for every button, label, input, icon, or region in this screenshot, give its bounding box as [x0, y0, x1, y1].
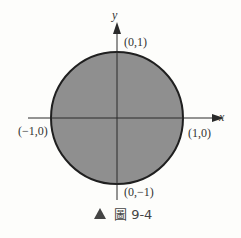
point-label-top: (0,1) — [124, 36, 147, 48]
point-label-left: (−1,0) — [18, 125, 48, 137]
x-axis-label: x — [219, 111, 224, 123]
caption-text: 圖 9-4 — [114, 204, 152, 223]
y-axis-arrow-icon — [113, 22, 121, 34]
triangle-marker-icon — [94, 208, 106, 219]
unit-circle-diagram — [0, 0, 241, 238]
point-label-right: (1,0) — [188, 127, 211, 139]
y-axis-label: y — [112, 9, 117, 21]
figure-canvas: y x (0,1) (−1,0) (1,0) (0,−1) 圖 9-4 — [0, 0, 241, 238]
point-label-bottom: (0,−1) — [124, 186, 154, 198]
figure-caption: 圖 9-4 — [94, 204, 152, 223]
